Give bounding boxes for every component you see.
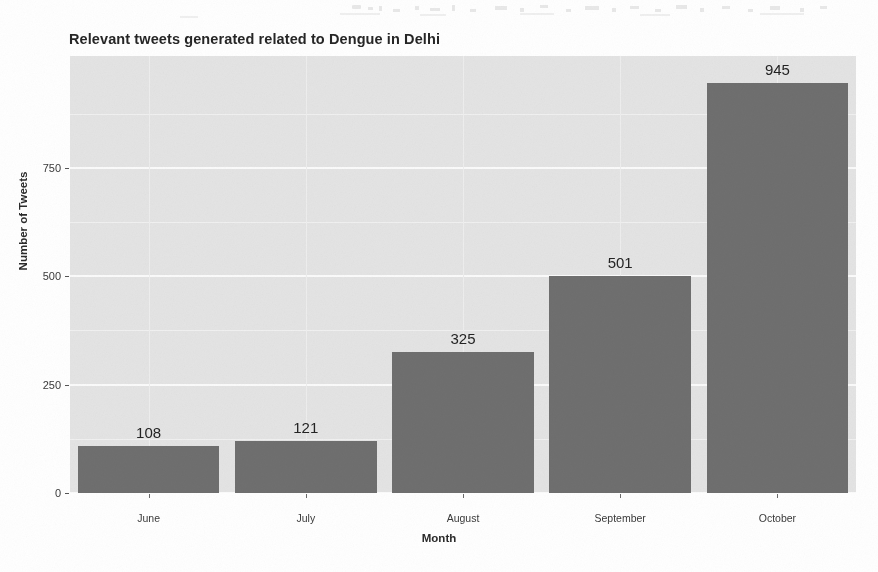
y-tick-label-0: 0	[55, 487, 61, 499]
bar-september	[549, 276, 690, 493]
bar-value-label-october: 945	[765, 61, 790, 78]
x-tick-label-september: September	[595, 512, 646, 524]
y-tick-mark	[65, 385, 69, 386]
bar-value-label-september: 501	[608, 254, 633, 271]
y-tick-mark	[65, 168, 69, 169]
bar-august	[392, 352, 533, 493]
bar-june	[78, 446, 219, 493]
x-tick-mark	[306, 494, 307, 498]
y-tick-label-750: 750	[43, 162, 61, 174]
x-tick-mark	[149, 494, 150, 498]
x-tick-label-august: August	[447, 512, 480, 524]
y-tick-mark	[65, 276, 69, 277]
bar-july	[235, 441, 376, 493]
bar-chart-figure: Relevant tweets generated related to Den…	[0, 0, 878, 572]
bar-value-label-june: 108	[136, 424, 161, 441]
x-tick-mark	[620, 494, 621, 498]
x-axis-title: Month	[0, 532, 878, 544]
x-tick-mark	[463, 494, 464, 498]
x-tick-mark	[777, 494, 778, 498]
bar-value-label-august: 325	[450, 330, 475, 347]
y-tick-label-500: 500	[43, 270, 61, 282]
plot-panel	[70, 56, 856, 493]
x-tick-label-july: July	[296, 512, 315, 524]
y-tick-label-250: 250	[43, 379, 61, 391]
x-tick-label-october: October	[759, 512, 796, 524]
x-tick-label-june: June	[137, 512, 160, 524]
chart-title: Relevant tweets generated related to Den…	[69, 31, 440, 47]
bar-value-label-july: 121	[293, 419, 318, 436]
bar-october	[707, 83, 848, 493]
y-axis-title: Number of Tweets	[17, 161, 29, 281]
y-tick-mark	[65, 493, 69, 494]
